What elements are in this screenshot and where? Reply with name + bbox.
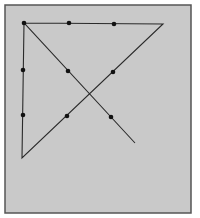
dot-9 [109, 115, 114, 120]
dot-1 [22, 21, 27, 26]
dot-8 [65, 114, 70, 119]
dot-2 [67, 21, 72, 26]
dot-5 [66, 69, 71, 74]
diagram-frame [5, 5, 191, 213]
dot-7 [21, 113, 26, 118]
dot-6 [111, 70, 116, 75]
nine-dots-diagram [0, 0, 200, 218]
dot-4 [21, 68, 26, 73]
dot-3 [112, 22, 117, 27]
